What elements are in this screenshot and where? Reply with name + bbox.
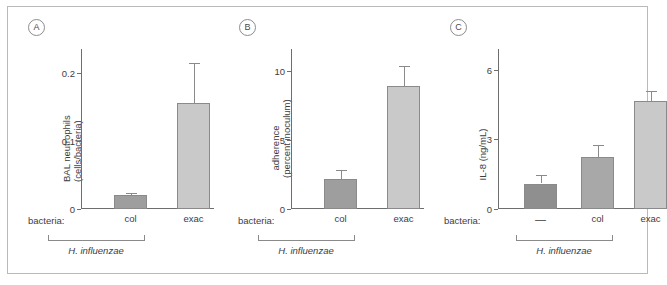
y-tick-label-c-1: 3 bbox=[487, 134, 492, 145]
error-bar-b-1 bbox=[404, 66, 405, 87]
bar-a-1 bbox=[177, 103, 210, 209]
y-axis-label-b-line1: adherence bbox=[270, 118, 281, 178]
panel-letter-a: A bbox=[28, 19, 45, 36]
y-tick-b-2 bbox=[287, 71, 291, 72]
error-cap-c-1 bbox=[593, 145, 604, 146]
y-tick-label-b-2: 10 bbox=[274, 66, 285, 77]
plot-area-b: 0510 bbox=[291, 49, 401, 209]
x-tick-label-c-0: — bbox=[535, 213, 546, 225]
plot-area-c: 036 bbox=[498, 49, 638, 209]
y-tick-c-0 bbox=[494, 209, 498, 210]
error-bar-c-2 bbox=[651, 91, 652, 101]
bacteria-prefix-c: bacteria: bbox=[444, 215, 480, 226]
error-cap-b-0 bbox=[336, 170, 347, 171]
bar-a-0 bbox=[114, 195, 147, 209]
y-tick-label-a-1: 0.1 bbox=[62, 135, 75, 146]
y-axis-c bbox=[498, 49, 499, 209]
y-tick-label-a-2: 0.2 bbox=[62, 67, 75, 78]
y-axis-label-b: adherence (percent inoculum) bbox=[270, 118, 292, 178]
x-tick-label-a-0: col bbox=[124, 213, 136, 224]
group-bracket-b bbox=[258, 235, 355, 241]
y-tick-a-2 bbox=[77, 73, 81, 74]
y-tick-b-1 bbox=[287, 140, 291, 141]
error-bar-b-0 bbox=[341, 170, 342, 178]
group-label-c: H. influenzae bbox=[536, 245, 591, 256]
x-tick-label-c-1: col bbox=[591, 213, 603, 224]
y-tick-label-a-0: 0 bbox=[70, 204, 75, 215]
x-tick-label-b-1: exac bbox=[393, 213, 413, 224]
error-bar-c-1 bbox=[598, 145, 599, 157]
error-bar-a-1 bbox=[194, 63, 195, 104]
group-label-a: H. influenzae bbox=[68, 245, 123, 256]
y-tick-label-c-0: 0 bbox=[487, 204, 492, 215]
group-bracket-c bbox=[516, 235, 613, 241]
x-axis-c bbox=[498, 208, 656, 209]
bar-c-0 bbox=[524, 184, 557, 210]
x-tick-label-b-0: col bbox=[334, 213, 346, 224]
y-axis-a bbox=[81, 49, 82, 209]
y-tick-c-1 bbox=[494, 139, 498, 140]
x-tick-label-a-1: exac bbox=[183, 213, 203, 224]
group-bracket-a bbox=[48, 235, 145, 241]
y-axis-label-a-line1: BAL neutrophils bbox=[61, 122, 72, 182]
panel-c: C IL-8 (ng/mL) 036 bacteria: —colexacH. … bbox=[428, 7, 649, 275]
panel-a: A BAL neutrophils (cells/bacteria) 00.10… bbox=[8, 7, 223, 275]
y-tick-c-2 bbox=[494, 70, 498, 71]
group-label-b: H. influenzae bbox=[278, 245, 333, 256]
bacteria-prefix-a: bacteria: bbox=[28, 215, 64, 226]
error-cap-b-1 bbox=[399, 66, 410, 67]
y-tick-label-b-0: 0 bbox=[280, 204, 285, 215]
panel-letter-b: B bbox=[239, 19, 256, 36]
panel-letter-c: C bbox=[450, 19, 467, 36]
x-tick-label-c-2: exac bbox=[640, 213, 660, 224]
y-tick-b-0 bbox=[287, 209, 291, 210]
bar-c-1 bbox=[581, 157, 614, 209]
error-cap-a-0 bbox=[126, 193, 137, 194]
plot-area-a: 00.10.2 bbox=[81, 49, 191, 209]
y-tick-label-b-1: 5 bbox=[280, 135, 285, 146]
bar-b-0 bbox=[324, 179, 357, 209]
bar-b-1 bbox=[387, 86, 420, 209]
error-cap-a-1 bbox=[189, 63, 200, 64]
bacteria-prefix-b: bacteria: bbox=[238, 215, 274, 226]
bar-c-2 bbox=[634, 101, 667, 209]
figure-frame: A BAL neutrophils (cells/bacteria) 00.10… bbox=[7, 6, 648, 274]
y-tick-a-1 bbox=[77, 141, 81, 142]
error-bar-c-0 bbox=[541, 175, 542, 183]
error-cap-c-2 bbox=[646, 91, 657, 92]
error-cap-c-0 bbox=[536, 175, 547, 176]
y-axis-label-a: BAL neutrophils (cells/bacteria) bbox=[61, 122, 83, 182]
y-tick-label-c-2: 6 bbox=[487, 64, 492, 75]
y-tick-a-0 bbox=[77, 209, 81, 210]
y-axis-b bbox=[291, 49, 292, 209]
panel-b: B adherence (percent inoculum) 0510 bact… bbox=[219, 7, 434, 275]
